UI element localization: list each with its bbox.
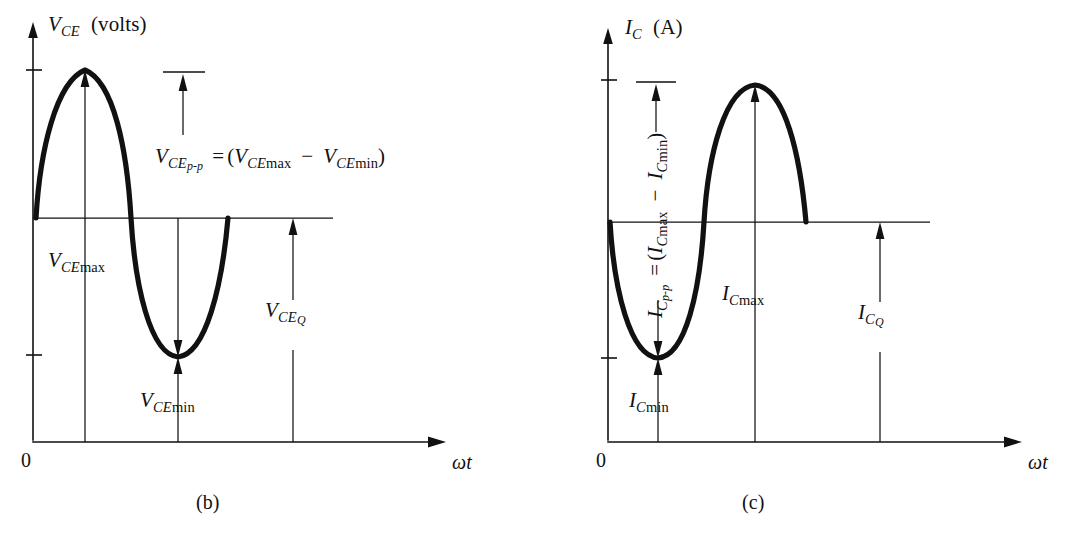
- panel-b-equation: VCEp-p=(VCEmax−VCEmin): [155, 146, 385, 172]
- figure-root: VCE (volts) VCEp-p=(VCEmax−VCEmin) VCEma…: [0, 0, 1077, 535]
- panel-b-vector: [26, 22, 446, 447]
- panel-b-y-axis-label: VCE (volts): [48, 14, 147, 38]
- panel-c-x-axis-label: ωt: [1028, 452, 1048, 472]
- panel-b-vcemin-label: VCEmin: [140, 390, 195, 414]
- panel-c-icmin-label: ICmin: [629, 390, 669, 414]
- panel-b-vceq-arrowhead: [289, 218, 298, 235]
- panel-c-caption: (c): [742, 492, 765, 512]
- panel-c-icq-arrowhead: [876, 222, 885, 239]
- panel-c-pp-arrowhead: [652, 84, 661, 101]
- panel-b-waveform: [36, 70, 228, 357]
- panel-b-y-axis-arrowhead: [28, 22, 38, 38]
- panel-c-icmin-arrowhead-up: [654, 358, 663, 375]
- panel-b-origin-label: 0: [21, 450, 31, 470]
- panel-b-vceq-label: VCEQ: [265, 300, 306, 326]
- panel-b-pp-arrowhead: [179, 74, 188, 91]
- panel-c-equation: ICp-p=(ICmax−ICmin): [645, 133, 671, 318]
- panel-b-x-axis-arrowhead: [428, 437, 446, 448]
- panel-c-icq-label: ICQ: [858, 302, 884, 328]
- panel-c-y-axis-arrowhead: [603, 28, 613, 44]
- panel-c-origin-label: 0: [596, 450, 606, 470]
- panel-b-x-axis-label: ωt: [452, 452, 472, 472]
- panel-c-icmax-label: ICmax: [722, 283, 764, 307]
- panel-c-x-axis-arrowhead: [1004, 437, 1022, 448]
- panel-b-caption: (b): [196, 492, 220, 512]
- figure-vector-layer: [0, 0, 1077, 535]
- panel-b-vcemax-label: VCEmax: [48, 250, 105, 274]
- panel-c-y-axis-label: IC (A): [625, 17, 683, 41]
- panel-b-vcemin-arrowhead-up: [174, 357, 183, 374]
